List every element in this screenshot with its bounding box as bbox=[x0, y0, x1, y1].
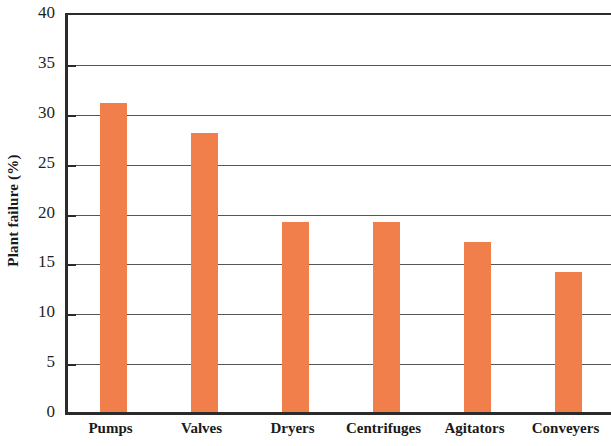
x-axis-tick-labels: PumpsValvesDryersCentrifugesAgitatorsCon… bbox=[65, 418, 611, 446]
bar bbox=[373, 222, 400, 412]
x-axis-tick-label: Valves bbox=[181, 420, 222, 437]
y-axis-tick-label: 10 bbox=[38, 302, 55, 322]
y-axis-tick-label: 15 bbox=[38, 252, 55, 272]
y-axis-title-text: Plant failure (%) bbox=[5, 154, 22, 266]
x-axis-tick-label: Dryers bbox=[270, 420, 314, 437]
bar bbox=[100, 103, 127, 412]
y-axis-tick-label: 35 bbox=[38, 53, 55, 73]
y-axis-tick-label: 40 bbox=[38, 3, 55, 23]
bar bbox=[555, 272, 582, 412]
bar bbox=[464, 242, 491, 412]
x-axis-tick-label: Agitators bbox=[445, 420, 505, 437]
y-axis-tick-labels: 0510152025303540 bbox=[26, 0, 60, 446]
y-axis-tick-label: 20 bbox=[38, 203, 55, 223]
bar bbox=[191, 133, 218, 412]
y-axis-tick-label: 0 bbox=[47, 402, 56, 422]
bars-layer bbox=[68, 15, 611, 412]
bar-chart: Plant failure (%) 0510152025303540 Pumps… bbox=[0, 0, 611, 446]
bar bbox=[282, 222, 309, 412]
y-axis-tick-label: 25 bbox=[38, 153, 55, 173]
x-axis-tick-label: Conveyers bbox=[532, 420, 600, 437]
y-axis-title: Plant failure (%) bbox=[0, 0, 26, 420]
y-axis-tick-label: 5 bbox=[47, 352, 56, 372]
y-axis-tick-label: 30 bbox=[38, 103, 55, 123]
plot-area bbox=[65, 13, 611, 415]
x-axis-tick-label: Centrifuges bbox=[346, 420, 421, 437]
x-axis-tick-label: Pumps bbox=[88, 420, 132, 437]
